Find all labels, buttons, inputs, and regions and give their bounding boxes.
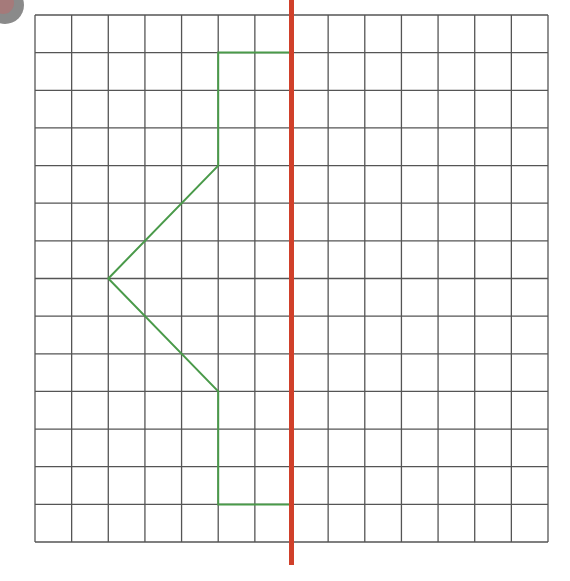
symmetry-grid-diagram [0, 0, 570, 581]
